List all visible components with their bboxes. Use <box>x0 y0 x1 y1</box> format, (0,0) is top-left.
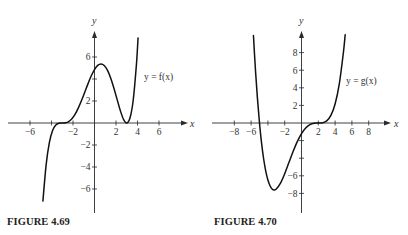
x-tick-label: 8 <box>366 127 371 137</box>
y-tick-label: 4 <box>293 83 298 93</box>
x-axis-label: x <box>189 118 195 129</box>
x-tick-label: 2 <box>316 127 321 137</box>
curve-gx <box>253 35 345 190</box>
y-tick-label: 6 <box>86 52 91 62</box>
x-tick-label: 4 <box>333 127 338 137</box>
y-tick-label: −6 <box>287 171 297 181</box>
figure-caption-4-70: FIGURE 4.70 <box>214 216 277 227</box>
x-tick-label: −8 <box>229 127 239 137</box>
y-axis-label: y <box>298 15 304 26</box>
figure-caption-4-69: FIGURE 4.69 <box>7 216 70 227</box>
x-tick-label: 2 <box>114 127 119 137</box>
figure-4-69-plot: y x y = f(x) −6−2246−6−4−226 <box>8 15 195 213</box>
y-axis-arrow-icon <box>299 31 304 38</box>
x-tick-label: 6 <box>350 127 355 137</box>
x-axis-arrow-icon <box>181 121 188 126</box>
y-axis-arrow-icon <box>92 31 97 38</box>
y-axis-label: y <box>91 15 97 26</box>
y-tick-label: 2 <box>293 101 298 111</box>
curve-label-f: y = f(x) <box>144 72 173 83</box>
figure-4-70-plot: y x y = g(x) −8−6−22468−8−62468 <box>212 15 399 213</box>
x-tick-label: −6 <box>25 127 35 137</box>
y-tick-label: 2 <box>86 96 91 106</box>
x-axis-label: x <box>393 118 399 129</box>
curve-fx <box>43 38 138 201</box>
y-tick-label: 6 <box>293 66 298 76</box>
x-tick-label: 4 <box>135 127 140 137</box>
x-tick-label: −6 <box>246 127 256 137</box>
x-tick-label: −2 <box>68 127 78 137</box>
y-tick-label: −6 <box>80 184 90 194</box>
y-tick-label: −4 <box>80 162 90 172</box>
x-tick-label: −2 <box>280 127 290 137</box>
x-axis-arrow-icon <box>384 121 391 126</box>
y-tick-label: −2 <box>80 140 90 150</box>
figures-canvas: y x y = f(x) −6−2246−6−4−226 y x y = g(x… <box>0 0 408 235</box>
y-tick-label: 8 <box>293 48 298 58</box>
curve-label-g: y = g(x) <box>346 76 377 87</box>
y-tick-label: −8 <box>287 189 297 199</box>
x-tick-label: 6 <box>157 127 162 137</box>
